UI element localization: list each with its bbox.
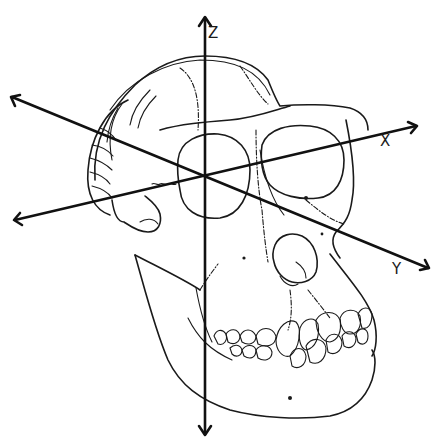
tooth-canine [276, 321, 299, 356]
tooth-lower-1 [230, 345, 242, 356]
right-orbit [261, 126, 344, 199]
skull-axes-diagram: Z X Y [0, 0, 446, 448]
maxilla-dash-right [308, 290, 330, 318]
face-left-outline [135, 255, 200, 290]
ear-hatch-4 [92, 186, 112, 198]
maxilla-dash-left [288, 290, 291, 330]
mastoid-inner [140, 219, 158, 224]
tooth-incisor-3 [340, 310, 361, 334]
tooth-upper-3 [240, 330, 256, 344]
cheek-dot [321, 233, 324, 236]
snout-right-outline [330, 254, 376, 356]
tooth-upper-4 [256, 329, 276, 346]
y-axis-line [12, 97, 428, 268]
cranial-vault-outline [95, 56, 368, 180]
x-axis-line [15, 126, 416, 220]
ear-hatch-3 [90, 172, 110, 184]
cranial-vault-inner [110, 60, 270, 110]
maxilla-dash-center [200, 264, 218, 290]
orbit-foramen-dot [304, 196, 308, 200]
tooth-incisor-1 [299, 319, 318, 350]
mastoid-process [112, 196, 161, 232]
temporal-line-left [180, 68, 198, 130]
tooth-upper-2 [226, 330, 240, 344]
x-axis-label: X [380, 134, 390, 149]
tooth-lower-8 [356, 329, 368, 344]
nasal-aperture [273, 234, 317, 283]
mental-foramen-dot [288, 396, 292, 400]
infraorbital-dot [242, 256, 245, 259]
z-axis-label: Z [208, 26, 218, 41]
tooth-lower-3 [256, 346, 272, 360]
brow-ridge [160, 106, 290, 130]
coordinate-axes [11, 17, 429, 435]
tooth-lower-2 [242, 346, 256, 359]
y-axis-label: Y [392, 262, 401, 277]
ear-hatch-2 [90, 158, 112, 170]
teeth [214, 308, 372, 368]
left-orbit [178, 134, 250, 218]
tooth-incisor-2 [316, 313, 341, 343]
skull-drawing [0, 0, 446, 448]
tooth-lower-4 [290, 349, 306, 368]
skull [88, 56, 376, 418]
nasal-inner-line [296, 262, 306, 278]
tooth-lower-6 [326, 334, 342, 353]
tooth-upper-1 [214, 330, 227, 344]
